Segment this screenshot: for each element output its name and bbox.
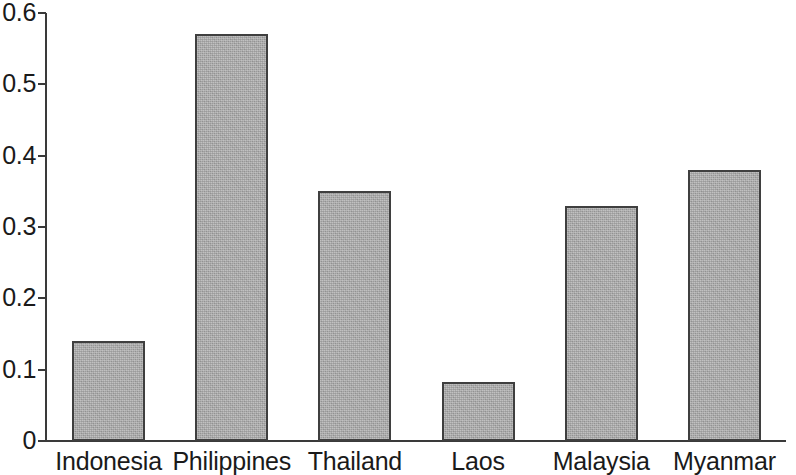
x-axis-label-myanmar: Myanmar bbox=[663, 447, 786, 475]
y-axis-tick bbox=[38, 369, 46, 371]
y-axis-tick-label-text: 0.3 bbox=[0, 214, 36, 239]
y-axis-tick-label: 0.5 bbox=[0, 71, 36, 96]
y-axis-tick-label-text: 0 bbox=[0, 428, 36, 453]
plot-area bbox=[47, 13, 786, 441]
y-axis-tick-label: 0 bbox=[0, 428, 36, 453]
y-axis-tick bbox=[38, 226, 46, 228]
y-axis-tick-label: 0.4 bbox=[0, 143, 36, 168]
y-axis-tick-label: 0.3 bbox=[0, 214, 36, 239]
y-axis-tick bbox=[38, 83, 46, 85]
x-axis-label-laos: Laos bbox=[417, 447, 540, 475]
x-axis-label-thailand: Thailand bbox=[293, 447, 416, 475]
x-axis-label-malaysia: Malaysia bbox=[540, 447, 663, 475]
y-axis-tick-label: 0.1 bbox=[0, 357, 36, 382]
y-axis-tick bbox=[38, 155, 46, 157]
y-axis-tick bbox=[38, 297, 46, 299]
bar-indonesia[interactable] bbox=[72, 341, 145, 441]
bar-myanmar[interactable] bbox=[688, 170, 761, 441]
bar-malaysia[interactable] bbox=[565, 206, 638, 441]
x-axis-label-indonesia: Indonesia bbox=[47, 447, 170, 475]
y-axis-tick-label: 0.6 bbox=[0, 0, 36, 25]
y-axis-tick-label-text: 0.4 bbox=[0, 143, 36, 168]
y-axis-tick bbox=[38, 12, 46, 14]
bar-chart: 0.60.50.40.30.20.10 IndonesiaPhilippines… bbox=[0, 0, 796, 475]
x-axis-label-philippines: Philippines bbox=[170, 447, 293, 475]
bar-philippines[interactable] bbox=[195, 34, 268, 441]
y-axis-tick-label-text: 0.5 bbox=[0, 71, 36, 96]
y-axis-tick-label-text: 0.6 bbox=[0, 0, 36, 25]
y-axis-tick-label-text: 0.2 bbox=[0, 285, 36, 310]
y-axis-tick-label: 0.2 bbox=[0, 285, 36, 310]
bar-laos[interactable] bbox=[442, 382, 515, 441]
y-axis-tick-label-text: 0.1 bbox=[0, 357, 36, 382]
bar-thailand[interactable] bbox=[318, 191, 391, 441]
